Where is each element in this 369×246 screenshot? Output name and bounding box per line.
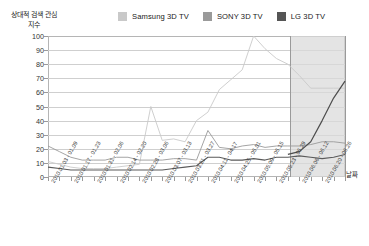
legend-label-lg: LG 3D TV (291, 12, 325, 21)
x-tick-mark (197, 177, 198, 181)
y-tick-mark (44, 177, 48, 178)
x-tick-mark (59, 177, 60, 181)
x-tick-mark (71, 177, 72, 181)
x-tick-mark (254, 177, 255, 181)
y-axis-title: 상대적 검색 관심 지수 (8, 10, 60, 30)
y-tick-label: 40 (22, 116, 44, 125)
x-tick-mark (334, 177, 335, 181)
x-tick-mark (128, 177, 129, 181)
legend-item-samsung: Samsung 3D TV (118, 12, 189, 21)
legend-label-samsung: Samsung 3D TV (132, 12, 189, 21)
x-tick-mark (288, 177, 289, 181)
y-tick-mark (44, 78, 48, 79)
y-tick-mark (44, 92, 48, 93)
y-tick-mark (44, 135, 48, 136)
x-tick-mark (105, 177, 106, 181)
x-tick-mark (242, 177, 243, 181)
legend-label-sony: SONY 3D TV (217, 12, 263, 21)
y-tick-label: 30 (22, 130, 44, 139)
x-tick-mark (265, 177, 266, 181)
x-tick-mark (94, 177, 95, 181)
legend-swatch-sony (203, 12, 212, 21)
y-tick-label: 60 (22, 88, 44, 97)
x-tick-mark (231, 177, 232, 181)
x-tick-mark (151, 177, 152, 181)
y-tick-mark (44, 64, 48, 65)
y-tick-label: 50 (22, 102, 44, 111)
chart-legend: Samsung 3D TV SONY 3D TV LG 3D TV (118, 12, 325, 21)
y-tick-mark (44, 50, 48, 51)
legend-item-lg: LG 3D TV (277, 12, 325, 21)
legend-item-sony: SONY 3D TV (203, 12, 263, 21)
x-tick-mark (219, 177, 220, 181)
x-tick-mark (82, 177, 83, 181)
x-axis-title: 날짜 (346, 170, 358, 179)
x-tick-mark (174, 177, 175, 181)
x-tick-mark (208, 177, 209, 181)
y-tick-mark (44, 121, 48, 122)
y-tick-label: 20 (22, 144, 44, 153)
y-tick-mark (44, 149, 48, 150)
legend-swatch-lg (277, 12, 286, 21)
y-tick-mark (44, 36, 48, 37)
y-tick-label: 90 (22, 46, 44, 55)
legend-swatch-samsung (118, 12, 127, 21)
y-tick-mark (44, 163, 48, 164)
search-interest-line-chart: 상대적 검색 관심 지수 Samsung 3D TV SONY 3D TV LG… (0, 0, 369, 246)
y-tick-label: 10 (22, 158, 44, 167)
y-tick-label: 0 (22, 173, 44, 182)
y-tick-label: 100 (22, 32, 44, 41)
y-tick-mark (44, 107, 48, 108)
y-axis-title-text: 상대적 검색 관심 지수 (11, 11, 57, 28)
y-axis-tick-labels: 0102030405060708090100 (20, 36, 44, 177)
y-tick-label: 70 (22, 74, 44, 83)
x-tick-mark (311, 177, 312, 181)
x-tick-mark (117, 177, 118, 181)
y-tick-label: 80 (22, 60, 44, 69)
